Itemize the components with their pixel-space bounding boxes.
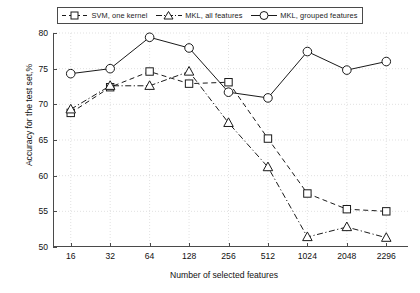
legend-label-mkl-all-features: MKL, all features [185,11,242,20]
series-3 [66,33,390,102]
data-point-triangle [184,67,194,76]
x-axis-label: Number of selected features [40,270,408,280]
data-point-circle [264,94,273,103]
data-point-circle [303,47,312,56]
y-tick-label: 65 [38,135,48,145]
legend-marker-circle [251,10,277,21]
data-point-circle [145,33,154,42]
data-point-circle [66,69,75,78]
data-point-square [264,135,271,142]
data-point-square [343,205,350,212]
y-tick-label: 75 [38,64,48,74]
data-point-square [304,190,311,197]
x-tick-label: 16 [66,251,76,261]
data-point-square [146,68,153,75]
legend-entry-mkl-grouped-features: MKL, grouped features [251,10,357,21]
data-point-circle [343,66,352,75]
data-point-circle [224,88,233,97]
data-point-square [383,208,390,215]
x-tick-label: 512 [261,251,275,261]
chart-figure: SVM, one kernel MKL, all features MKL, g… [0,0,420,293]
data-point-circle [185,44,194,53]
plot-area: 50556065707580 1632641282565121024204822… [53,33,408,247]
x-tick-label: 2296 [377,251,396,261]
legend-marker-square [62,10,88,21]
y-tick-label: 50 [38,242,48,252]
y-axis-label: Accuracy for the test set,% [24,20,34,210]
legend-label-mkl-grouped-features: MKL, grouped features [280,11,357,20]
legend-label-svm-one-kernel: SVM, one kernel [91,11,147,20]
x-tick-label: 64 [145,251,155,261]
y-tick-label: 80 [38,28,48,38]
data-point-circle [382,57,391,66]
data-point-triangle [342,222,352,231]
data-point-square [185,80,192,87]
x-tick-label: 32 [105,251,115,261]
data-point-triangle [66,104,76,113]
data-point-square [225,79,232,86]
chart-legend: SVM, one kernel MKL, all features MKL, g… [57,7,363,24]
y-tick-label: 70 [38,99,48,109]
data-point-triangle [382,233,392,242]
data-point-circle [106,64,115,73]
legend-marker-triangle [156,10,182,21]
x-tick-label: 1024 [298,251,317,261]
y-tick-label: 60 [38,171,48,181]
y-tick-mark [53,247,57,248]
legend-entry-svm-one-kernel: SVM, one kernel [62,10,147,21]
series-layer [53,33,408,247]
y-tick-label: 55 [38,206,48,216]
x-tick-label: 128 [182,251,196,261]
x-tick-label: 2048 [337,251,356,261]
x-tick-label: 256 [221,251,235,261]
legend-entry-mkl-all-features: MKL, all features [156,10,242,21]
